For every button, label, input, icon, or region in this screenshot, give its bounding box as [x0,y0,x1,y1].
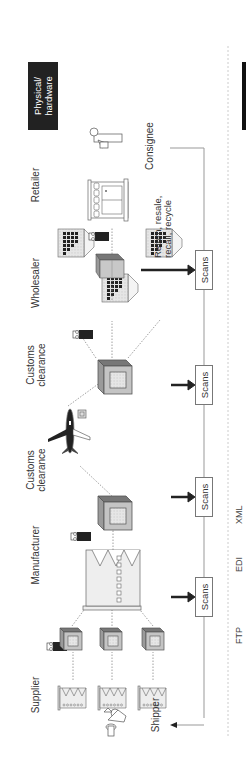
endpoint-label-shipper: Shipper [150,692,161,738]
consignee-person-icon [90,128,122,148]
scans-box: Scans [195,477,213,517]
shipper-person-icon [104,708,126,736]
protocol-label-xml: XML [234,505,244,524]
return-note: Return, resale, recall, recycle [153,196,173,258]
scans-box: Scans [195,577,213,617]
stage-label-supplier: Supplier [30,672,41,718]
package-icon [96,254,124,278]
truck-icon [71,532,91,541]
truck-icon [73,330,93,339]
customs-crate-icon [98,360,132,394]
manufacturer-factory-icon [83,550,141,610]
stage-label-manufacturer: Manufacturer [30,520,41,590]
stage-label-customs-2: Customs clearance [25,340,47,390]
endpoint-label-consignee: Consignee [144,116,155,176]
supplier-crate-icons [60,628,164,650]
layer-marker-bar [242,62,246,130]
protocol-label-edi: EDI [234,557,244,572]
scans-box: Scans [195,365,213,405]
truck-icon [89,232,109,241]
scan-arrows [141,265,195,602]
stage-label-customs-1: Customs clearance [25,445,47,495]
stage-label-wholesaler: Wholesaler [30,253,41,313]
arrow-to-shipper-icon [170,722,177,728]
layer-label-physical-hardware: Physical/ hardware [28,62,58,130]
protocol-label-ftp: FTP [234,627,244,644]
customs-crate-icon [98,496,132,530]
stage-label-retailer: Retailer [30,162,41,208]
supply-chain-diagram: Supplier Manufacturer Customs clearance … [0,0,246,776]
retailer-store-icon [88,179,128,221]
scans-box: Scans [195,250,213,290]
